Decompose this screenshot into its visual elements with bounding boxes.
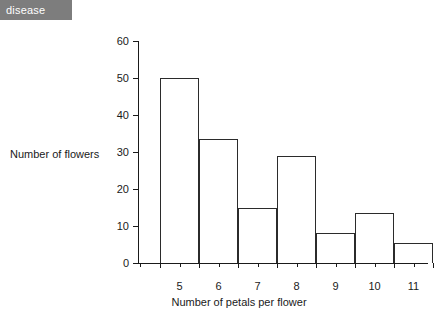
x-tick-label-6: 6 bbox=[215, 281, 221, 292]
y-tick-label: 60 bbox=[117, 36, 129, 47]
x-tick-edge bbox=[316, 263, 317, 268]
y-tick-mark bbox=[133, 115, 138, 116]
bar-11 bbox=[394, 243, 433, 263]
y-tick-mark bbox=[133, 226, 138, 227]
x-tick-center bbox=[297, 263, 298, 267]
x-tick-edge bbox=[355, 263, 356, 268]
x-tick-edge bbox=[160, 263, 161, 268]
bar-10 bbox=[355, 213, 394, 263]
x-tick-origin bbox=[140, 263, 141, 267]
x-tick-center bbox=[336, 263, 337, 267]
y-tick-mark bbox=[133, 41, 138, 42]
x-tick-label-7: 7 bbox=[254, 281, 260, 292]
x-tick-label-11: 11 bbox=[408, 281, 419, 292]
y-tick-label: 30 bbox=[117, 147, 129, 158]
x-axis-title: Number of petals per flower bbox=[0, 296, 438, 309]
x-tick-label-8: 8 bbox=[293, 281, 299, 292]
x-tick-label-9: 9 bbox=[332, 281, 338, 292]
y-tick-label: 0 bbox=[123, 258, 129, 269]
x-tick-center bbox=[375, 263, 376, 267]
x-tick-edge bbox=[277, 263, 278, 268]
x-tick-label-5: 5 bbox=[176, 281, 182, 292]
y-tick-label: 50 bbox=[117, 73, 129, 84]
x-tick-edge bbox=[433, 263, 434, 268]
x-axis-line bbox=[138, 263, 428, 264]
y-axis-line bbox=[138, 41, 139, 264]
y-tick-label: 20 bbox=[117, 184, 129, 195]
x-tick-edge bbox=[238, 263, 239, 268]
bar-8 bbox=[277, 156, 316, 263]
y-tick-mark bbox=[133, 263, 138, 264]
y-tick-label: 10 bbox=[117, 221, 129, 232]
x-tick-center bbox=[219, 263, 220, 267]
y-tick-mark bbox=[133, 189, 138, 190]
plot-area: 0102030405060 567891011 bbox=[138, 41, 428, 263]
bar-6 bbox=[199, 139, 238, 263]
bar-9 bbox=[316, 233, 355, 263]
x-tick-edge bbox=[394, 263, 395, 268]
x-tick-label-10: 10 bbox=[368, 281, 380, 292]
y-tick-mark bbox=[133, 152, 138, 153]
x-tick-edge bbox=[199, 263, 200, 268]
bar-5 bbox=[160, 78, 199, 263]
y-tick-mark bbox=[133, 78, 138, 79]
y-axis-title: Number of flowers bbox=[10, 148, 130, 161]
x-tick-center bbox=[258, 263, 259, 267]
y-tick-label: 40 bbox=[117, 110, 129, 121]
bar-7 bbox=[238, 208, 277, 264]
histogram-figure: Number of flowers 0102030405060 56789101… bbox=[0, 0, 438, 319]
x-tick-center bbox=[414, 263, 415, 267]
x-tick-center bbox=[180, 263, 181, 267]
